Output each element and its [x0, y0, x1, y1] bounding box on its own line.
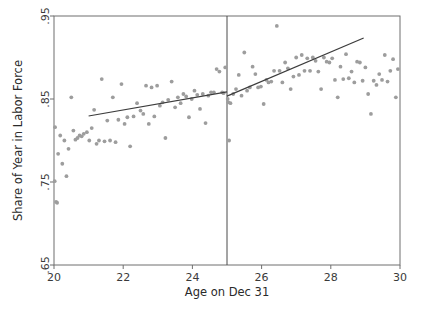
data-point [173, 105, 177, 109]
data-point [195, 93, 199, 97]
data-point [123, 122, 127, 126]
data-point [100, 77, 104, 81]
data-point [380, 78, 384, 82]
data-point [179, 101, 183, 105]
data-point [347, 76, 351, 80]
data-point [358, 61, 362, 65]
data-point [344, 52, 348, 56]
data-point [65, 174, 69, 178]
data-point [328, 61, 332, 65]
data-point [105, 119, 109, 123]
data-point [330, 56, 334, 60]
series-binned-means-right [226, 24, 400, 142]
data-point [352, 81, 356, 85]
x-tick-label: 28 [324, 271, 338, 284]
data-point [272, 69, 276, 73]
data-point [55, 201, 59, 205]
data-point [132, 115, 136, 119]
data-point [141, 112, 145, 116]
data-point [111, 95, 115, 99]
data-point [184, 95, 188, 99]
y-tick-label: .85 [39, 90, 52, 108]
data-point [164, 136, 168, 140]
data-point [375, 83, 379, 87]
plot-canvas: .65.75.85.95202224262830Age on Dec 31Sha… [0, 0, 421, 310]
data-point [292, 75, 296, 79]
data-point [237, 73, 241, 77]
data-point [308, 69, 312, 73]
data-point [278, 69, 282, 73]
data-point [198, 107, 202, 111]
data-point [227, 139, 231, 143]
data-point [53, 179, 57, 183]
x-axis-title: Age on Dec 31 [185, 285, 269, 299]
data-point [262, 102, 266, 106]
data-point [297, 73, 301, 77]
y-tick-label: .75 [39, 173, 52, 191]
x-tick-label: 20 [47, 271, 61, 284]
data-point [97, 139, 101, 143]
data-point [85, 130, 89, 134]
x-tick-label: 24 [185, 271, 199, 284]
data-point [364, 66, 368, 70]
data-point [372, 79, 376, 83]
data-point [245, 89, 249, 93]
data-point [120, 82, 124, 86]
data-point [300, 53, 304, 57]
data-point [62, 139, 66, 143]
data-point [251, 65, 255, 69]
data-point [391, 57, 395, 61]
data-point [150, 85, 154, 89]
data-point [166, 98, 170, 102]
data-point [333, 78, 337, 82]
data-point [155, 84, 159, 88]
data-point [361, 79, 365, 83]
data-point [217, 70, 221, 74]
data-point [125, 115, 129, 119]
data-point [116, 118, 120, 122]
data-point [336, 95, 340, 99]
data-point [294, 56, 298, 60]
scatter-plot-figure: .65.75.85.95202224262830Age on Dec 31Sha… [0, 0, 421, 310]
data-point [193, 89, 197, 93]
data-point [242, 51, 246, 55]
data-point [92, 108, 96, 112]
data-point [386, 80, 390, 84]
data-point [67, 147, 71, 151]
data-point [319, 87, 323, 91]
data-point [128, 144, 132, 148]
data-point [322, 56, 326, 60]
data-point [283, 61, 287, 65]
data-point [383, 53, 387, 57]
fit-right [227, 38, 364, 96]
x-tick-label: 22 [116, 271, 130, 284]
x-tick-label: 30 [393, 271, 407, 284]
data-point [253, 72, 257, 76]
data-point [350, 70, 354, 74]
data-point [152, 115, 156, 119]
data-point [269, 80, 273, 84]
data-point [87, 139, 91, 143]
data-point [144, 84, 148, 88]
data-point [289, 87, 293, 91]
data-point [58, 134, 62, 138]
data-point [69, 95, 73, 99]
data-point [90, 126, 94, 130]
data-point [108, 139, 112, 143]
data-point [316, 70, 320, 74]
data-point [229, 101, 233, 105]
data-point [366, 92, 370, 96]
data-point [234, 87, 238, 91]
data-point [147, 122, 151, 126]
data-point [187, 115, 191, 119]
x-tick-label: 26 [255, 271, 269, 284]
data-point [56, 152, 60, 156]
data-point [139, 109, 143, 113]
data-point [53, 125, 57, 129]
data-point [176, 95, 180, 99]
data-point [303, 69, 307, 73]
fit-left [89, 92, 227, 116]
data-point [204, 121, 208, 125]
data-point [275, 24, 279, 28]
data-point [369, 112, 373, 116]
